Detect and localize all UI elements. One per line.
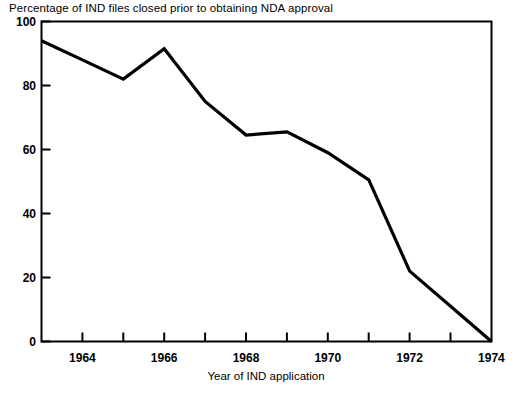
plot-frame [42,22,492,342]
y-tick-label: 40 [23,207,37,221]
y-tick-labels: 100 80 60 40 20 0 [16,15,36,349]
x-tick-label: 1968 [233,351,260,365]
x-tick-label: 1966 [151,351,178,365]
line-chart-plot: 100 80 60 40 20 0 1964 1966 1968 1970 19… [0,0,518,394]
chart-figure: Percentage of IND files closed prior to … [0,0,518,394]
x-tick-label: 1974 [478,351,505,365]
y-tick-label: 100 [16,15,36,29]
x-tick-label: 1970 [314,351,341,365]
x-tick-labels: 1964 1966 1968 1970 1972 1974 [69,351,505,365]
y-tick-label: 20 [23,271,37,285]
y-tick-label: 0 [29,335,36,349]
x-axis-title: Year of IND application [207,370,324,382]
y-tick-label: 80 [23,79,37,93]
x-tick-label: 1964 [69,351,96,365]
y-tick-label: 60 [23,143,37,157]
x-tick-label: 1972 [396,351,423,365]
